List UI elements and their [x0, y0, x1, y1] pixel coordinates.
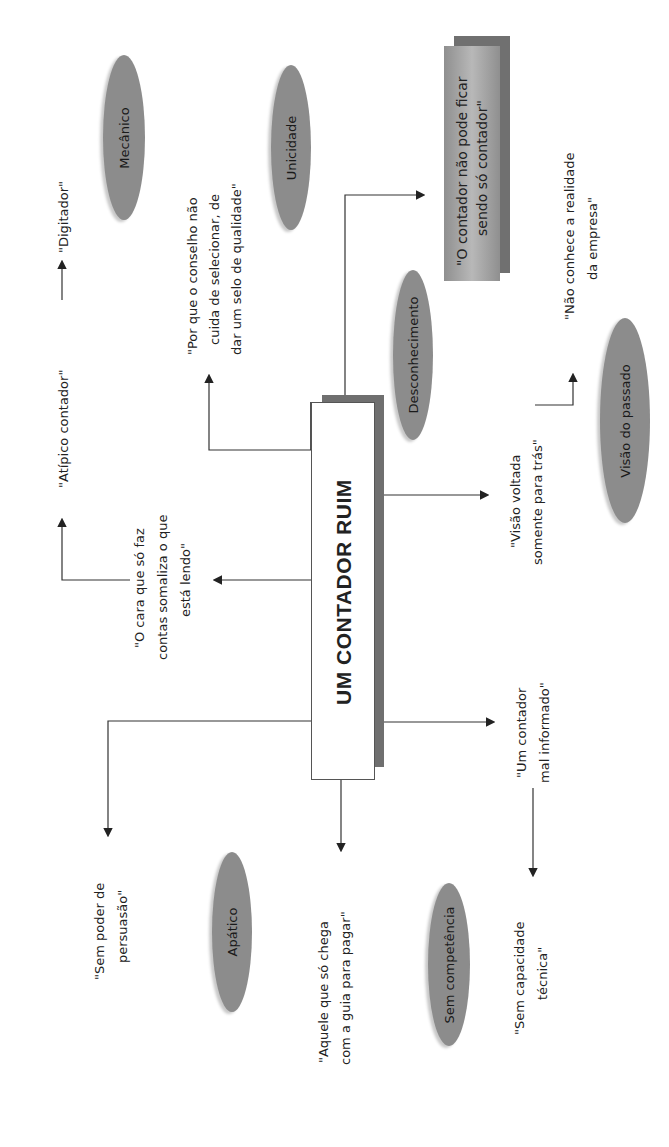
quote-aquele-line1: "Aquele que só chega [314, 921, 334, 1063]
quote-nao-conhece-line2: da empresa" [583, 197, 603, 280]
quote-mal-informado-line1: "Um contador [512, 688, 532, 778]
ellipse-visao-passado: Visão do passado [600, 318, 650, 523]
quote-visao-voltada-line2: somente para trás" [528, 439, 548, 565]
ellipse-mecanico: Mecânico [103, 55, 145, 220]
quote-digitador: "Digitador" [54, 181, 74, 253]
ellipse-unicidade: Unicidade [271, 65, 311, 230]
ellipse-apatico: Apático [212, 852, 252, 1012]
quote-mal-informado-line2: mal informado" [535, 682, 555, 783]
central-node-label: UM CONTADOR RUIM [332, 479, 356, 705]
quote-sem-poder-line1: "Sem poder de [90, 883, 110, 980]
quote-visao-voltada-line1: "Visão voltada [506, 454, 526, 548]
quote-sem-capacidade-line1: "Sem capacidade [510, 921, 530, 1035]
quote-cara-line1: "O cara que só faz [130, 528, 150, 648]
quote-aquele-line2: com a guia para pagar" [336, 911, 356, 1065]
highlight-box-line1: "O contador não pode ficar [452, 77, 472, 267]
quote-sem-poder-line2: persuasão" [113, 890, 133, 963]
highlight-box: "O contador não pode ficar sendo só cont… [444, 46, 500, 281]
highlight-box-line2: sendo só contador" [472, 100, 492, 236]
quote-conselho-line2: cuida de selecionar, de [205, 194, 225, 345]
quote-nao-conhece-line1: "Não conhece a realidade [560, 153, 580, 320]
central-node: UM CONTADOR RUIM [311, 402, 375, 780]
quote-conselho-line3: dar um selo de qualidade" [227, 183, 247, 355]
ellipse-desconhecimento: Desconhecimento [393, 270, 433, 440]
quote-sem-capacidade-line2: técnica" [533, 947, 553, 1000]
quote-conselho-line1: "Por que o conselho não [183, 197, 203, 355]
quote-atipico: "Atípico contador" [54, 370, 74, 488]
quote-cara-line2: contas somaliza o que [153, 515, 173, 660]
quote-cara-line3: está lendo" [176, 543, 196, 617]
ellipse-sem-competencia: Sem competência [428, 883, 470, 1046]
